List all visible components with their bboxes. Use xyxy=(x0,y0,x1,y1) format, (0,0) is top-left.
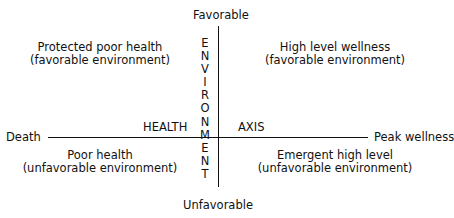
vertical-letter: T xyxy=(198,168,212,181)
quadrant-top-right-subtitle: (favorable environment) xyxy=(255,54,415,67)
vertical-letter: N xyxy=(198,155,212,168)
quadrant-top-left-subtitle: (favorable environment) xyxy=(20,54,180,67)
label-environment-vertical: ENVIRONMENT xyxy=(198,37,212,181)
label-axis: AXIS xyxy=(238,121,264,134)
environment-axis-line xyxy=(218,26,219,187)
vertical-letter: M xyxy=(198,129,212,142)
quadrant-bottom-left-subtitle: (unfavorable environment) xyxy=(20,162,180,175)
vertical-letter: N xyxy=(198,116,212,129)
label-favorable: Favorable xyxy=(193,9,249,22)
label-health: HEALTH xyxy=(143,121,187,134)
label-unfavorable: Unfavorable xyxy=(183,199,253,212)
label-peak-wellness: Peak wellness xyxy=(374,131,454,144)
vertical-letter: O xyxy=(198,102,212,115)
quadrant-bottom-right: Emergent high level (unfavorable environ… xyxy=(255,149,415,175)
quadrant-top-right: High level wellness (favorable environme… xyxy=(255,41,415,67)
quadrant-top-left: Protected poor health (favorable environ… xyxy=(20,41,180,67)
quadrant-bottom-left: Poor health (unfavorable environment) xyxy=(20,149,180,175)
quadrant-bottom-right-subtitle: (unfavorable environment) xyxy=(255,162,415,175)
vertical-letter: E xyxy=(198,142,212,155)
label-death: Death xyxy=(6,131,41,144)
